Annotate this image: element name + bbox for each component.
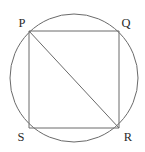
figure-canvas: P Q R S [0,0,145,152]
diagonal-pr [29,31,119,128]
vertex-label-q: Q [121,16,130,30]
vertex-label-r: R [124,130,133,144]
vertex-label-s: S [18,130,25,144]
geometry-figure: P Q R S [0,0,145,152]
vertex-label-p: P [19,16,26,30]
